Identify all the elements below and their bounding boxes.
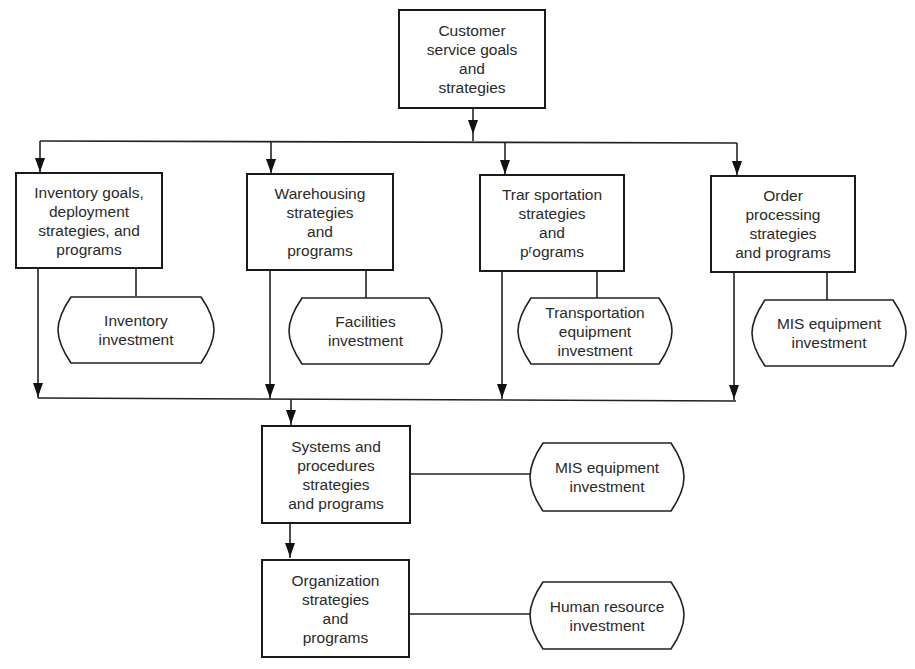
- inventory-label: Inventory goals, deployment strategies, …: [34, 183, 143, 259]
- warehousing-box: Warehousing strategies and programs: [246, 173, 394, 271]
- order-processing-label: Order processing strategies and programs: [735, 186, 831, 262]
- organization-box: Organization strategies and programs: [261, 559, 410, 658]
- mis-investment-terminal-systems: MIS equipment investment: [529, 442, 685, 512]
- customer-service-goals-label: Customer service goals and strategies: [427, 21, 517, 97]
- human-resource-investment-terminal: Human resource investment: [529, 581, 685, 650]
- mis-investment-label-top: MIS equipment investment: [777, 314, 881, 352]
- transportation-investment-terminal: Transportation equipment investment: [517, 297, 673, 365]
- organization-label: Organization strategies and programs: [292, 571, 380, 647]
- systems-procedures-box: Systems and procedures strategies and pr…: [261, 425, 411, 524]
- inventory-investment-terminal: Inventory investment: [57, 296, 215, 364]
- facilities-investment-label: Facilities investment: [328, 312, 403, 350]
- systems-procedures-label: Systems and procedures strategies and pr…: [288, 437, 384, 513]
- human-resource-investment-label: Human resource investment: [550, 597, 665, 635]
- inventory-investment-label: Inventory investment: [99, 311, 174, 349]
- transportation-label: Trar sportation strategies and pʳograms: [502, 185, 602, 261]
- mis-investment-terminal-top: MIS equipment investment: [751, 299, 907, 367]
- mis-investment-label-systems: MIS equipment investment: [555, 458, 659, 496]
- facilities-investment-terminal: Facilities investment: [288, 297, 443, 365]
- warehousing-label: Warehousing strategies and programs: [275, 184, 366, 260]
- inventory-box: Inventory goals, deployment strategies, …: [15, 172, 163, 269]
- customer-service-goals-box: Customer service goals and strategies: [398, 9, 546, 109]
- transportation-investment-label: Transportation equipment investment: [545, 303, 644, 360]
- order-processing-box: Order processing strategies and programs: [710, 175, 856, 273]
- transportation-box: Trar sportation strategies and pʳograms: [479, 174, 625, 272]
